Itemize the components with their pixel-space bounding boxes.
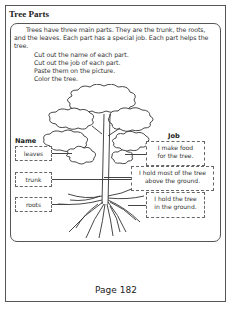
page-number: Page 182 — [0, 285, 232, 295]
job-column-header: Job — [168, 132, 180, 140]
job-line: for the tree. — [147, 152, 204, 160]
step-item: Cut out the job of each part. — [34, 59, 216, 67]
name-column-header: Name — [15, 137, 36, 145]
worksheet-title: Tree Parts — [9, 9, 49, 19]
steps-list: Cut out the name of each part. Cut out t… — [14, 51, 216, 84]
job-line: I hold most of the tree — [132, 169, 213, 177]
support-connector — [104, 177, 131, 178]
food-connector — [125, 154, 146, 155]
job-line: I hold the tree — [147, 195, 204, 203]
leaves-connector — [52, 153, 72, 154]
intro-paragraph: Trees have three main parts. They are th… — [14, 26, 216, 51]
name-label-trunk[interactable]: trunk — [15, 172, 52, 187]
name-label-leaves[interactable]: leaves — [15, 146, 52, 161]
roots-connector — [52, 204, 68, 205]
name-label-roots[interactable]: roots — [15, 197, 52, 212]
instructions: Trees have three main parts. They are th… — [14, 26, 216, 83]
job-label-hold-in-ground[interactable]: I hold the tree in the ground. — [146, 192, 205, 218]
step-item: Paste them on the picture. — [34, 67, 216, 75]
trunk-connector — [52, 179, 132, 180]
job-label-make-food[interactable]: I make food for the tree. — [146, 141, 205, 166]
job-label-hold-above-ground[interactable]: I hold most of the tree above the ground… — [131, 166, 214, 191]
step-item: Color the tree. — [34, 75, 216, 83]
job-line: above the ground. — [132, 177, 213, 185]
job-line: I make food — [147, 144, 204, 152]
step-item: Cut out the name of each part. — [34, 51, 216, 59]
anchor-connector — [128, 205, 146, 206]
job-line: in the ground. — [147, 203, 204, 211]
